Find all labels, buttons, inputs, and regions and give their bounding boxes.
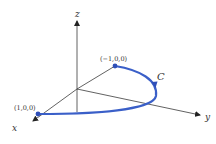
x-axis-label: x (12, 123, 17, 133)
y-axis (77, 89, 200, 115)
3d-diagram: z x y C (1,0,0) (−1,0,0) (0, 0, 216, 144)
point-negative-x-label: (−1,0,0) (100, 55, 128, 63)
x-axis (33, 89, 77, 121)
curve-c (38, 66, 156, 114)
point-positive-x (36, 112, 41, 117)
y-axis-label: y (204, 112, 211, 122)
point-positive-x-label: (1,0,0) (14, 104, 36, 112)
x-axis-back (77, 66, 115, 89)
z-axis-label: z (74, 9, 80, 19)
point-negative-x (113, 64, 118, 69)
curve-label: C (157, 71, 165, 82)
